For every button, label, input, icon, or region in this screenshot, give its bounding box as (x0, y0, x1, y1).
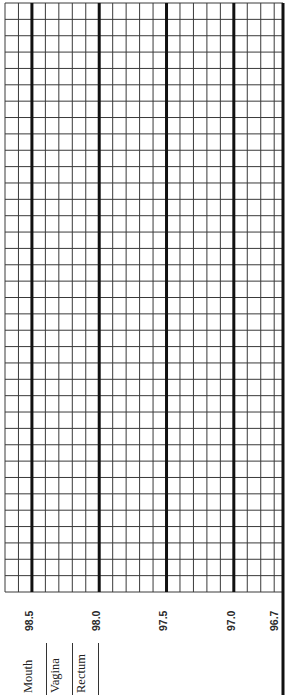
tick-label-96-7: 96.7 (268, 611, 280, 631)
tick-label-98-0: 98.0 (90, 611, 102, 631)
temperature-grid (0, 0, 295, 699)
legend-rectum: Rectum (74, 654, 89, 693)
tick-label-97-0: 97.0 (225, 611, 237, 631)
legend-divider (46, 643, 47, 695)
legend-mouth: Mouth (21, 660, 36, 693)
tick-label-97-5: 97.5 (157, 611, 169, 631)
tick-label-98-5: 98.5 (23, 611, 35, 631)
legend-divider (98, 643, 99, 695)
legend-divider (72, 643, 73, 695)
legend-vagina: Vagina (48, 658, 63, 693)
